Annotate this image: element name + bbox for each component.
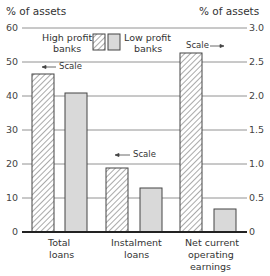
- category-total-line2: loans: [49, 249, 74, 260]
- scale-annotation-total: Scale: [59, 61, 82, 71]
- left-axis-label: % of assets: [6, 5, 66, 17]
- category-instalment-line1: Instalment: [111, 237, 162, 248]
- category-instalment-line2: loans: [124, 249, 149, 260]
- legend-high-line2: banks: [53, 43, 81, 54]
- bar-total-loans-high: [32, 74, 54, 232]
- scale-annotation-instalment: Scale: [133, 149, 156, 159]
- category-total-line1: Total: [48, 237, 70, 248]
- left-tick-10: 10: [6, 192, 18, 203]
- right-tick-1-5: 1.5: [249, 124, 264, 135]
- right-tick-1-0: 1.0: [249, 158, 264, 169]
- legend-swatches: [93, 34, 120, 50]
- left-tick-30: 30: [6, 124, 18, 135]
- right-tick-3-0: 3.0: [249, 22, 264, 33]
- scale-annotation-net: Scale: [186, 40, 209, 50]
- right-axis-label: % of assets: [199, 5, 259, 17]
- left-tick-40: 40: [6, 90, 18, 101]
- left-tick-0: 0: [12, 226, 18, 237]
- right-tick-2-0: 2.0: [249, 90, 264, 101]
- right-tick-0: 0: [249, 226, 255, 237]
- bars: [32, 53, 236, 232]
- legend-low-line2: banks: [134, 43, 162, 54]
- right-tick-0-5: 0.5: [249, 192, 264, 203]
- bar-net-earnings-low: [214, 209, 236, 232]
- left-tick-60: 60: [6, 22, 18, 33]
- right-tick-2-5: 2.5: [249, 56, 264, 67]
- left-tick-50: 50: [6, 56, 18, 67]
- category-net-line2: operating: [188, 249, 234, 260]
- category-net-line3: earnings: [190, 261, 231, 272]
- category-net-line1: Net current: [185, 237, 239, 248]
- left-tick-20: 20: [6, 158, 18, 169]
- bar-total-loans-low: [65, 93, 87, 232]
- legend-high-line1: High profit: [42, 32, 92, 43]
- bar-net-earnings-high: [180, 53, 202, 232]
- bar-instalment-high: [106, 168, 128, 232]
- legend-low-line1: Low profit: [124, 32, 171, 43]
- bar-instalment-low: [140, 188, 162, 232]
